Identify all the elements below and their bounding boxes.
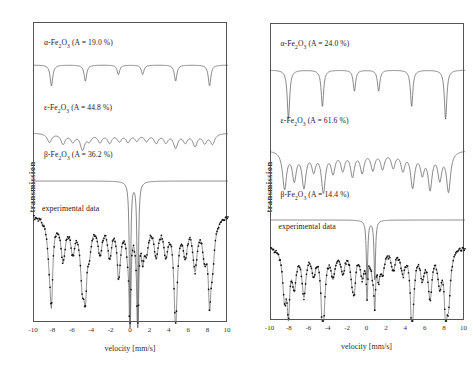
component-label-alpha-right: α-Fe2O3 (A = 24.0 %) — [281, 39, 350, 50]
x-tick-label: 10 — [224, 326, 231, 334]
x-tick-label: -10 — [28, 326, 37, 334]
x-tick-label: 4 — [167, 326, 171, 334]
component-label-alpha-left: α-Fe2O3 (A = 19.0 %) — [44, 38, 113, 49]
x-tick-label: 4 — [404, 324, 408, 332]
x-tick-label: -2 — [108, 326, 114, 334]
x-tick-label: -4 — [325, 324, 331, 332]
subspectrum-Fe2O3 — [271, 70, 465, 119]
subspectrum-Fe2O3 — [271, 152, 465, 194]
spectra-plot-right — [271, 24, 465, 321]
panel-right: transmission α-Fe2O3 (A = 24.0 %) ε-Fe2O… — [237, 0, 473, 374]
x-tick-label: 2 — [384, 324, 388, 332]
x-tick-labels-left: -10-8-6-4-20246810 — [33, 326, 227, 338]
x-tick-label: 2 — [148, 326, 152, 334]
component-label-beta-right: β-Fe2O3 (A = 14.4 %) — [281, 190, 350, 201]
component-label-beta-left: β-Fe2O3 (A = 36.2 %) — [44, 150, 113, 161]
x-tick-label: 6 — [423, 324, 427, 332]
x-tick-label: 10 — [460, 324, 467, 332]
x-tick-label: 0 — [128, 326, 132, 334]
x-tick-label: 0 — [365, 324, 369, 332]
x-axis-label-right: velocity [mm/s] — [270, 342, 464, 351]
mossbauer-figure: transmission α-Fe2O3 (A = 19.0 %) ε-Fe2O… — [0, 0, 473, 374]
plot-area-right — [270, 23, 464, 320]
x-tick-label: -8 — [49, 326, 55, 334]
subspectrum-Fe2O3 — [34, 65, 228, 86]
component-label-epsilon-left: ε-Fe2O3 (A = 44.8 %) — [44, 103, 112, 114]
plot-area-left — [33, 22, 227, 322]
experimental-data-label-right: experimental data — [279, 222, 336, 231]
x-tick-label: -8 — [286, 324, 292, 332]
spectra-plot-left — [34, 23, 228, 323]
x-tick-label: -6 — [69, 326, 75, 334]
x-tick-label: 8 — [442, 324, 446, 332]
x-tick-label: -2 — [344, 324, 350, 332]
x-tick-label: -10 — [265, 324, 274, 332]
x-tick-label: 8 — [206, 326, 210, 334]
x-tick-labels-right: -10-8-6-4-20246810 — [270, 324, 464, 336]
x-tick-label: -6 — [305, 324, 311, 332]
panel-left: transmission α-Fe2O3 (A = 19.0 %) ε-Fe2O… — [0, 0, 237, 374]
x-tick-label: 6 — [186, 326, 190, 334]
x-axis-label-left: velocity [mm/s] — [33, 344, 227, 353]
experimental-data-label-left: experimental data — [42, 204, 99, 213]
x-tick-label: -4 — [88, 326, 94, 334]
subspectrum-Fe2O3 — [34, 134, 228, 151]
component-label-epsilon-right: ε-Fe2O3 (A = 61.6 %) — [281, 116, 349, 127]
